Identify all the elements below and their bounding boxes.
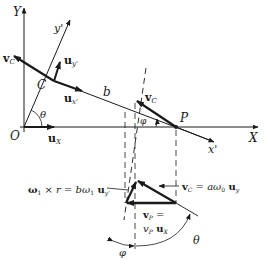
label-C: C <box>37 78 46 92</box>
label-vP-line2: vP uX <box>143 223 168 235</box>
omega-cross-r-vector <box>126 182 136 203</box>
kinematics-diagram: Y y' X x' O C P b θ φ vC vC uy' ux' uX ω… <box>0 0 266 260</box>
label-P: P <box>179 111 189 125</box>
x-prime-axis <box>176 127 214 142</box>
label-O: O <box>10 129 20 143</box>
u-x-prime-vector <box>54 81 82 91</box>
label-u-X: uX <box>48 132 62 146</box>
u-y-prime-vector <box>54 62 60 81</box>
label-Y: Y <box>13 5 22 19</box>
vC-triangle-vector <box>138 181 176 203</box>
label-X: X <box>248 131 258 145</box>
omega-leader <box>107 188 128 190</box>
label-phi: φ <box>140 116 147 126</box>
label-u-y-prime: uy' <box>64 54 78 68</box>
label-b: b <box>103 85 111 99</box>
label-u-x-prime: ux' <box>64 92 78 106</box>
label-vP-line1: vP = <box>142 209 164 221</box>
label-vC-at-P: vC <box>144 91 157 105</box>
label-y-prime: y' <box>53 22 63 35</box>
vC-vector-at-C <box>14 56 54 81</box>
lower-extension-line <box>176 203 198 216</box>
label-omega-cross-r: ω1 × r = bω1 uy' <box>28 184 110 197</box>
label-vC-equation: vC = aω0 uy <box>181 181 240 194</box>
label-theta-lower: θ <box>193 234 200 247</box>
label-phi-lower: φ <box>119 247 126 258</box>
point-P <box>174 125 178 129</box>
label-x-prime: x' <box>208 143 217 156</box>
phi-arc-lower <box>113 241 134 246</box>
label-theta: θ <box>40 109 46 120</box>
label-vC-top: vC <box>2 52 15 66</box>
y-prime-axis <box>24 20 70 127</box>
